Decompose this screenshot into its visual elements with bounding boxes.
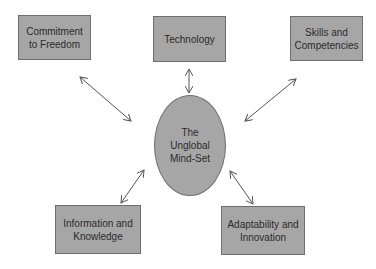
node-label: Technology — [164, 33, 215, 46]
node-adaptability-and-innovation: Adaptability and Innovation — [221, 206, 305, 255]
arrow-information — [121, 170, 144, 203]
node-technology: Technology — [153, 16, 226, 62]
center-label: The Unglobal Mind-Set — [170, 126, 210, 165]
node-label: Information and Knowledge — [63, 217, 133, 243]
node-label: Adaptability and Innovation — [227, 218, 298, 244]
arrow-adaptability — [230, 171, 253, 204]
node-commitment-to-freedom: Commitment to Freedom — [18, 15, 91, 60]
node-information-and-knowledge: Information and Knowledge — [55, 205, 141, 254]
node-label: Skills and Competencies — [295, 26, 359, 52]
node-label: Commitment to Freedom — [26, 25, 83, 51]
center-node-unglobal-mind-set: The Unglobal Mind-Set — [154, 95, 226, 196]
node-skills-and-competencies: Skills and Competencies — [290, 16, 363, 61]
arrow-commitment — [80, 77, 131, 121]
arrow-skills — [245, 79, 296, 121]
